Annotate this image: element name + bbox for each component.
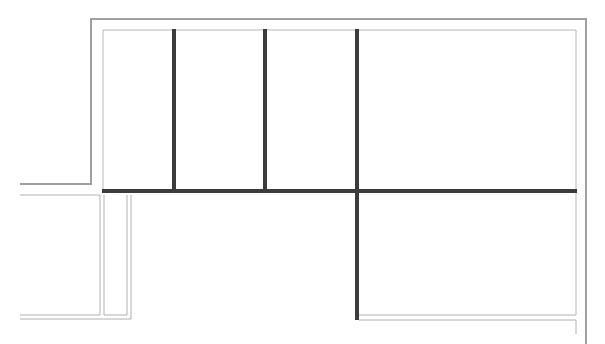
corridor-outline [104,195,127,315]
lower-left-room-outline [20,195,100,315]
outer-wall-line [20,19,586,344]
lower-right-room [359,315,576,334]
walls [104,31,575,318]
corridor [104,195,127,315]
lower-left-block [20,195,131,319]
lower-right-outer-line [359,320,576,334]
floor-plan [0,0,605,344]
lower-left-outer-line [20,195,131,319]
outer-boundary [20,19,586,344]
